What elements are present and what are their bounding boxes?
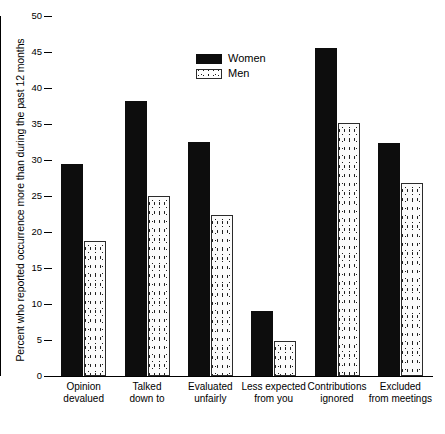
x-axis-label-line2: from you bbox=[237, 393, 310, 405]
bar-women-1 bbox=[125, 101, 147, 376]
y-axis-tick-label: 10 bbox=[22, 299, 42, 309]
y-axis-tick-label: 45 bbox=[22, 47, 42, 57]
y-axis-tick bbox=[44, 340, 52, 341]
y-axis-tick-label: 15 bbox=[22, 263, 42, 273]
bar-men-0 bbox=[84, 241, 106, 376]
bar-women-5 bbox=[378, 143, 400, 376]
y-axis-tick bbox=[44, 376, 52, 377]
x-axis-label-line1: Less expected bbox=[237, 381, 310, 393]
y-axis-tick bbox=[44, 124, 52, 125]
bar-men-5 bbox=[401, 183, 423, 376]
x-axis-label-1: Talkeddown to bbox=[110, 381, 183, 405]
y-axis-line bbox=[0, 16, 1, 376]
y-axis-tick bbox=[44, 160, 52, 161]
bar-women-4 bbox=[315, 48, 337, 376]
y-axis-tick bbox=[44, 88, 52, 89]
x-axis-label-0: Opiniondevalued bbox=[47, 381, 120, 405]
y-axis-tick-label: 25 bbox=[22, 191, 42, 201]
legend-item-men: Men bbox=[196, 66, 266, 81]
legend-swatch-women bbox=[196, 54, 222, 64]
y-axis-tick-label: 20 bbox=[22, 227, 42, 237]
x-axis-label-line2: ignored bbox=[300, 393, 373, 405]
bar-women-2 bbox=[188, 142, 210, 376]
x-axis-label-4: Contributionsignored bbox=[300, 381, 373, 405]
y-axis-tick bbox=[44, 16, 52, 17]
y-axis-tick-label: 0 bbox=[22, 371, 42, 381]
legend-item-women: Women bbox=[196, 51, 266, 66]
y-axis-tick bbox=[44, 232, 52, 233]
x-axis-line bbox=[52, 376, 433, 377]
y-axis-tick-label: 5 bbox=[22, 335, 42, 345]
y-axis-tick-label: 50 bbox=[22, 11, 42, 21]
x-axis-label-line2: down to bbox=[110, 393, 183, 405]
bar-men-2 bbox=[211, 215, 233, 376]
y-axis-tick bbox=[44, 196, 52, 197]
x-axis-label-3: Less expectedfrom you bbox=[237, 381, 310, 405]
bar-women-3 bbox=[251, 311, 273, 376]
bar-men-1 bbox=[148, 196, 170, 376]
x-axis-label-line1: Contributions bbox=[300, 381, 373, 393]
legend-label: Men bbox=[228, 66, 249, 81]
legend-label: Women bbox=[228, 51, 266, 66]
x-axis-label-line2: from meetings bbox=[364, 393, 437, 405]
x-axis-label-line2: unfairly bbox=[174, 393, 247, 405]
y-axis-tick-label: 30 bbox=[22, 155, 42, 165]
x-axis-label-line1: Evaluated bbox=[174, 381, 247, 393]
legend-swatch-men bbox=[196, 69, 222, 79]
y-axis-tick bbox=[44, 304, 52, 305]
y-axis-tick bbox=[44, 268, 52, 269]
x-axis-label-line2: devalued bbox=[47, 393, 120, 405]
bar-men-4 bbox=[338, 123, 360, 376]
y-axis-tick-label: 35 bbox=[22, 119, 42, 129]
y-axis-tick-label: 40 bbox=[22, 83, 42, 93]
x-axis-label-2: Evaluatedunfairly bbox=[174, 381, 247, 405]
bar-chart: Percent who reported occurrence more tha… bbox=[0, 0, 445, 434]
bar-women-0 bbox=[61, 164, 83, 376]
x-axis-label-line1: Talked bbox=[110, 381, 183, 393]
bar-men-3 bbox=[274, 341, 296, 376]
y-axis-tick bbox=[44, 52, 52, 53]
chart-legend: WomenMen bbox=[196, 51, 266, 81]
x-axis-label-line1: Excluded bbox=[364, 381, 437, 393]
x-axis-label-5: Excludedfrom meetings bbox=[364, 381, 437, 405]
x-axis-label-line1: Opinion bbox=[47, 381, 120, 393]
